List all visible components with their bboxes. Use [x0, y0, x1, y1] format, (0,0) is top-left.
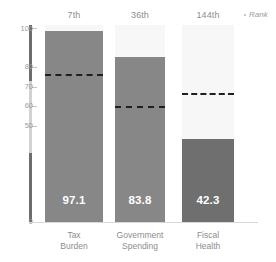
reference-line-fiscal-health: [182, 93, 234, 95]
category-label-government-spending: Government Spending: [110, 230, 170, 252]
bar-value-tax-burden: 97.1: [45, 194, 103, 206]
rank-legend: Rank: [244, 8, 268, 22]
bar-value-government-spending: 83.8: [115, 194, 165, 206]
reference-line-tax-burden: [45, 74, 103, 76]
category-label-fiscal-health-line1: Fiscal: [182, 230, 234, 241]
plot-area: 100 80 70 60 50 0 97.1 83.8 42.3: [0, 25, 276, 225]
y-axis-spine-highlight: [29, 81, 32, 153]
rank-value-government-spending: 36th: [115, 8, 165, 22]
rank-legend-label: Rank: [249, 10, 268, 19]
category-label-tax-burden-line1: Tax: [45, 230, 103, 241]
x-axis-baseline: [29, 222, 258, 223]
bar-value-fiscal-health: 42.3: [182, 194, 234, 206]
rank-bar-chart: 7th 36th 144th Rank 100 80 70 60 50 0: [0, 0, 276, 262]
rank-header-row: 7th 36th 144th Rank: [0, 8, 276, 24]
category-label-government-spending-line2: Spending: [110, 241, 170, 252]
y-tick-label-80: 80: [25, 63, 33, 71]
legend-dot-icon: [244, 14, 246, 16]
reference-line-government-spending: [115, 106, 165, 108]
category-label-tax-burden: Tax Burden: [45, 230, 103, 252]
y-tick-label-70: 70: [25, 83, 33, 91]
bar-fiscal-health[interactable]: [182, 139, 234, 222]
category-label-tax-burden-line2: Burden: [45, 241, 103, 252]
category-label-fiscal-health-line2: Health: [182, 241, 234, 252]
y-tick-label-50: 50: [25, 122, 33, 130]
category-label-government-spending-line1: Government: [110, 230, 170, 241]
category-label-fiscal-health: Fiscal Health: [182, 230, 234, 252]
rank-value-tax-burden: 7th: [45, 8, 103, 22]
y-tick-label-100: 100: [20, 25, 33, 33]
y-tick-label-60: 60: [25, 102, 33, 110]
rank-value-fiscal-health: 144th: [182, 8, 234, 22]
